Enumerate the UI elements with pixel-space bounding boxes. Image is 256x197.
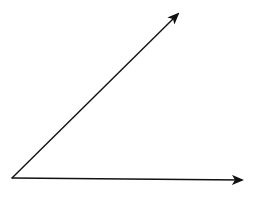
angle-figure [0, 0, 256, 197]
upper-ray [12, 14, 178, 178]
vertex-point [11, 177, 13, 179]
angle-diagram: Two rays sharing a common vertex forming… [0, 0, 256, 197]
horizontal-ray [12, 178, 242, 180]
